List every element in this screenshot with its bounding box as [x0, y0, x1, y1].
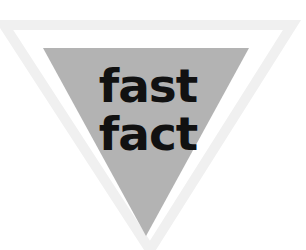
fast-fact-badge: fast fact — [0, 0, 306, 250]
badge-text-line1: fast — [98, 64, 198, 108]
badge-text-line2: fact — [98, 112, 198, 156]
